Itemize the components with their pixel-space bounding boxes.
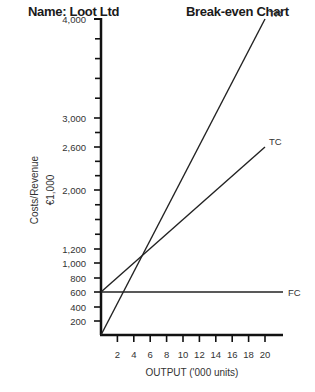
y-tick-label: 4,000 (62, 14, 86, 25)
x-tick-label: 12 (194, 349, 205, 360)
y-tick-label: 400 (70, 302, 86, 313)
y-tick-label: 2,000 (62, 185, 86, 196)
x-tick-label: 18 (243, 349, 254, 360)
x-tick-label: 16 (227, 349, 238, 360)
series-line-tc (101, 147, 265, 292)
x-tick-label: 6 (148, 349, 153, 360)
y-tick-label: 3,000 (62, 113, 86, 124)
break-even-chart: Costs/Revenue €1,000 2004006008001,0001,… (0, 0, 315, 392)
series-line-tr (101, 19, 265, 335)
y-tick-label: 800 (70, 273, 86, 284)
x-tick-label: 4 (131, 349, 136, 360)
series-lines: TRTCFC (101, 8, 301, 335)
x-axis-title: OUTPUT ('000 units) (146, 367, 239, 378)
x-tick-label: 8 (164, 349, 169, 360)
x-tick-label: 2 (115, 349, 120, 360)
y-tick-label: 200 (70, 316, 86, 327)
series-label-fc: FC (288, 287, 301, 298)
y-axis-unit: €1,000 (45, 174, 56, 205)
x-tick-label: 20 (260, 349, 271, 360)
y-tick-label: 1,000 (62, 258, 86, 269)
y-tick-label: 2,600 (62, 142, 86, 153)
series-label-tr: TR (269, 8, 282, 19)
x-tick-label: 10 (178, 349, 189, 360)
y-axis-ticks: 2004006008001,0001,2002,0002,6003,0004,0… (62, 14, 101, 327)
y-axis-title: Costs/Revenue (29, 155, 40, 224)
series-label-tc: TC (269, 136, 282, 147)
x-axis-ticks: 2468101214161820 (115, 335, 271, 360)
y-tick-label: 1,200 (62, 244, 86, 255)
x-tick-label: 14 (211, 349, 222, 360)
y-tick-label: 600 (70, 287, 86, 298)
